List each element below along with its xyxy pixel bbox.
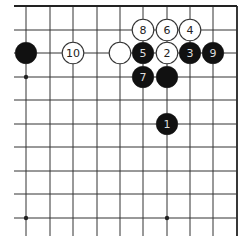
go-board: 10523986471 (0, 0, 246, 243)
move-number: 7 (140, 71, 147, 84)
white-stone-6: 6 (156, 19, 178, 41)
move-number: 1 (164, 118, 171, 131)
white-stone-8: 8 (132, 19, 154, 41)
black-stone (156, 66, 178, 88)
move-number: 9 (210, 47, 217, 60)
stone-disc (15, 42, 37, 64)
star-point (165, 216, 169, 220)
black-stone-1: 1 (156, 113, 178, 135)
white-stone-2: 2 (156, 42, 178, 64)
star-point (24, 75, 28, 79)
black-stone-9: 9 (202, 42, 224, 64)
white-stone (109, 42, 131, 64)
star-point (24, 216, 28, 220)
white-stone-4: 4 (179, 19, 201, 41)
black-stone (15, 42, 37, 64)
move-number: 4 (187, 24, 194, 37)
grid-lines (14, 6, 237, 236)
move-number: 6 (164, 24, 171, 37)
move-number: 3 (187, 47, 194, 60)
stone-disc (156, 66, 178, 88)
black-stone-3: 3 (179, 42, 201, 64)
stone-disc (109, 42, 131, 64)
move-number: 8 (140, 24, 147, 37)
white-stone-10: 10 (62, 42, 84, 64)
move-number: 2 (164, 47, 171, 60)
black-stone-7: 7 (132, 66, 154, 88)
black-stone-5: 5 (132, 42, 154, 64)
move-number: 5 (140, 47, 147, 60)
move-number: 10 (66, 47, 80, 60)
